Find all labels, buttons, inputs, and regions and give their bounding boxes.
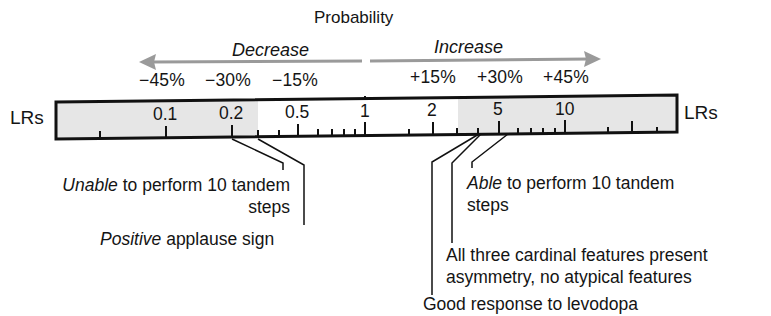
chart-title: Probability	[314, 8, 393, 28]
pct-plus-30: +30%	[477, 67, 523, 87]
tick-label-10: 10	[555, 99, 574, 119]
annotation-applause: Positive applause sign	[100, 228, 274, 250]
tick-label-1: 1	[360, 101, 370, 121]
leader-able	[472, 134, 508, 168]
pct-minus-30: −30%	[205, 70, 251, 90]
decrease-label: Decrease	[232, 40, 309, 60]
annotation-able-line2: steps	[467, 194, 674, 216]
pct-plus-45: +45%	[543, 67, 589, 87]
leader-unable	[232, 139, 283, 170]
tick-label-0-1: 0.1	[153, 104, 177, 124]
annotation-cardinal-line2: asymmetry, no atypical features	[446, 266, 708, 288]
lrs-label-right: LRs	[684, 103, 718, 123]
annotation-unable-rest: to perform 10 tandem	[118, 175, 290, 195]
annotation-cardinal: All three cardinal features present asym…	[446, 244, 708, 288]
increase-label: Increase	[434, 37, 503, 57]
annotation-unable-emph: Unable	[62, 175, 117, 195]
annotation-able-emph: Able	[467, 173, 502, 193]
tick-label-2: 2	[427, 100, 437, 120]
lrs-label-left: LRs	[10, 108, 44, 128]
pct-minus-15: −15%	[272, 70, 318, 90]
tick-label-0-2: 0.2	[219, 103, 243, 123]
annotation-unable: Unable to perform 10 tandem steps	[12, 174, 290, 218]
annotation-unable-line2: steps	[12, 196, 290, 218]
pct-plus-15: +15%	[410, 67, 456, 87]
annotation-able: Able to perform 10 tandem steps	[467, 172, 674, 216]
annotation-applause-emph: Positive	[100, 229, 161, 249]
annotation-cardinal-line1: All three cardinal features present	[446, 244, 708, 266]
tick-label-0-5: 0.5	[285, 102, 309, 122]
tick-label-5: 5	[493, 99, 503, 119]
annotation-able-rest: to perform 10 tandem	[502, 173, 674, 193]
pct-minus-45: −45%	[139, 70, 185, 90]
annotation-applause-rest: applause sign	[161, 229, 274, 249]
annotation-levodopa: Good response to levodopa	[423, 293, 638, 315]
